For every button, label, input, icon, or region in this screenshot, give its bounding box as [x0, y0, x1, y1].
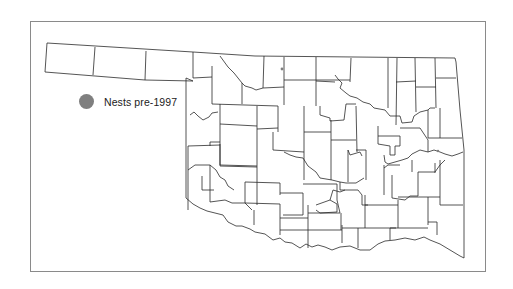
map-legend: Nests pre-1997 — [79, 94, 177, 109]
nest-marker-icon — [79, 94, 94, 109]
legend-label-nests: Nests pre-1997 — [104, 96, 177, 108]
nest-point — [437, 150, 439, 152]
oklahoma-county-map — [0, 0, 513, 289]
nest-point — [281, 68, 284, 71]
state-outline — [45, 43, 464, 258]
